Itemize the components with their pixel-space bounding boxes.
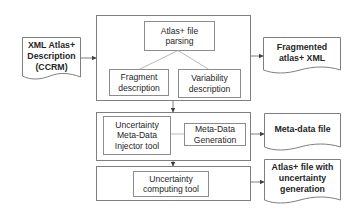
fragmented-xml-label: Fragmented atlas+ XML <box>263 38 341 68</box>
metadata-generation-label: Meta-Data Generation <box>184 123 246 146</box>
injector-tool-label: Uncertainty Meta-Data Injector tool <box>103 116 171 155</box>
fragment-description-label: Fragment description <box>109 69 169 96</box>
metadata-file-label: Meta-data file <box>264 114 341 144</box>
atlas-uncertainty-label: Atlas+ file with uncertainty generation <box>264 160 341 197</box>
atlas-parsing-label: Atlas+ file parsing <box>144 21 215 51</box>
label-line: Atlas+ file <box>161 26 199 37</box>
label-line: Uncertainty <box>143 174 199 185</box>
label-line: (CCRM) <box>27 62 75 73</box>
label-line: Atlas+ file with <box>272 162 334 173</box>
label-line: Description <box>27 51 75 62</box>
label-line: Uncertainty <box>115 120 159 131</box>
label-line: uncertainty <box>272 173 334 184</box>
label-line: Generation <box>194 135 237 146</box>
label-line: atlas+ XML <box>277 53 327 64</box>
label-line: Injector tool <box>115 141 159 152</box>
label-line: Meta-Data <box>194 124 237 135</box>
label-line: XML Atlas+ <box>27 40 75 51</box>
label-line: generation <box>272 184 334 195</box>
xml-input-label: XML Atlas+ Description (CCRM) <box>22 38 81 74</box>
variability-description-label: Variability description <box>178 69 241 98</box>
computing-tool-label: Uncertainty computing tool <box>133 171 209 197</box>
label-line: Fragment <box>118 72 160 83</box>
label-line: Meta-Data <box>115 130 159 141</box>
label-line: Variability <box>189 73 231 84</box>
label-line: Meta-data file <box>274 124 330 135</box>
label-line: Fragmented <box>277 42 327 53</box>
label-line: computing tool <box>143 184 199 195</box>
label-line: description <box>189 84 231 95</box>
label-line: parsing <box>161 36 199 47</box>
label-line: description <box>118 83 160 94</box>
